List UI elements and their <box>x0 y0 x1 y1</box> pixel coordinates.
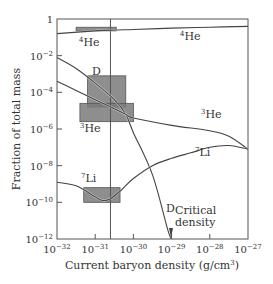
label-3He: 3He <box>80 122 101 135</box>
bbn-abundance-chart: 10−3210−3110−3010−2910−2810−27 110−210−4… <box>0 0 273 284</box>
label-D: D <box>92 65 101 78</box>
y-tick-label: 10−2 <box>30 50 53 62</box>
x-tick-label: 10−29 <box>158 243 186 255</box>
x-tick-label: 10−31 <box>81 243 109 255</box>
x-axis-ticks: 10−3210−3110−3010−2910−2810−27 <box>43 234 262 255</box>
critical-density-label: Criticaldensity <box>175 204 217 229</box>
y-tick-label: 1 <box>47 14 53 25</box>
y-tick-label: 10−10 <box>25 196 53 208</box>
svg-text:density: density <box>175 216 216 229</box>
y-tick-label: 10−6 <box>30 123 54 135</box>
x-tick-label: 10−28 <box>196 243 224 255</box>
y-axis-title: Fraction of total mass <box>10 68 23 191</box>
label-7Li: 7Li <box>195 146 211 159</box>
x-tick-label: 10−32 <box>43 243 71 255</box>
x-tick-label: 10−27 <box>234 243 262 255</box>
label-7Li: 7Li <box>81 172 97 185</box>
label-4He: 4He <box>79 36 100 49</box>
x-axis-title: Current baryon density (g/cm3) <box>65 259 239 272</box>
y-tick-label: 10−4 <box>30 86 54 98</box>
label-4He: 4He <box>180 30 201 43</box>
x-tick-label: 10−30 <box>120 243 148 255</box>
y-tick-label: 10−8 <box>30 160 53 172</box>
label-3He: 3He <box>201 108 222 121</box>
label-D: D <box>166 202 175 215</box>
